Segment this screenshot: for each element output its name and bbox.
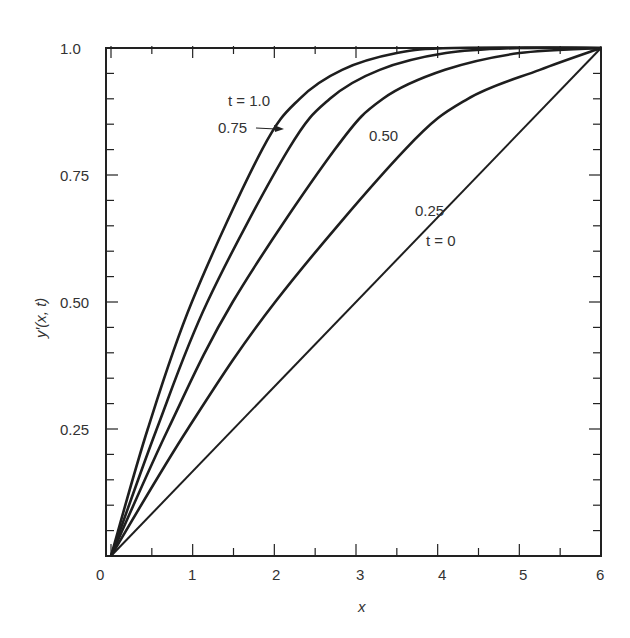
curve-label-t1: t = 1.0 <box>228 92 270 109</box>
curve-label-t050: 0.50 <box>369 127 398 144</box>
x-tick-label: 4 <box>438 566 446 583</box>
y-tick-label: 0.75 <box>60 167 89 184</box>
x-axis-title: x <box>357 598 366 615</box>
chart-canvas: 1.0 0.75 0.50 0.25 0 1 2 3 4 5 6 x y′(x,… <box>0 0 630 638</box>
x-tick-label: 6 <box>596 566 604 583</box>
y-tick-label: 0.50 <box>60 294 89 311</box>
x-tick-label: 2 <box>272 566 280 583</box>
x-tick-label: 5 <box>519 566 527 583</box>
curve-label-t0: t = 0 <box>426 232 456 249</box>
axis-ticks <box>106 46 601 556</box>
x-tick-label: 0 <box>96 566 104 583</box>
x-tick-label: 3 <box>356 566 364 583</box>
arrow-icon <box>256 125 284 132</box>
curves <box>111 48 601 556</box>
y-tick-label: 0.25 <box>60 421 89 438</box>
curve-label-t075: 0.75 <box>218 119 247 136</box>
y-axis-title: y′(x, t) <box>32 298 49 339</box>
x-tick-label: 1 <box>188 566 196 583</box>
curve-label-t025: 0.25 <box>415 202 444 219</box>
y-tick-label: 1.0 <box>60 40 81 57</box>
